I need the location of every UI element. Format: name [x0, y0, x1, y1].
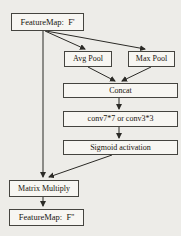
arrow-avg-pool-to-concat	[88, 67, 115, 81]
arrow-sigmoid-to-matrix-multiply	[49, 155, 112, 177]
node-concat: Concat	[63, 83, 178, 98]
node-conv-label: conv7*7 or conv3*3	[88, 115, 154, 123]
node-max-pool-label: Max Pool	[136, 55, 167, 63]
node-featuremap-input-label: FeatureMap: F'	[21, 18, 75, 27]
node-matrix-multiply: Matrix Multiply	[9, 180, 79, 197]
node-conv: conv7*7 or conv3*3	[63, 111, 178, 127]
node-sigmoid-activation: Sigmoid activation	[63, 140, 178, 155]
node-max-pool: Max Pool	[128, 51, 175, 67]
attention-module-diagram: FeatureMap: F' Avg Pool Max Pool Concat …	[0, 0, 181, 236]
arrow-input-to-max-pool	[46, 31, 145, 49]
node-avg-pool-label: Avg Pool	[73, 55, 103, 63]
node-matrix-multiply-label: Matrix Multiply	[18, 185, 70, 193]
node-featuremap-output-label: FeatureMap: F''	[19, 213, 74, 222]
node-concat-label: Concat	[109, 87, 132, 95]
arrow-input-to-avg-pool	[45, 31, 85, 49]
node-featuremap-input: FeatureMap: F'	[11, 13, 84, 31]
node-featuremap-output: FeatureMap: F''	[9, 209, 84, 226]
node-sigmoid-activation-label: Sigmoid activation	[90, 144, 151, 152]
node-avg-pool: Avg Pool	[64, 51, 112, 67]
arrow-max-pool-to-concat	[122, 67, 151, 81]
